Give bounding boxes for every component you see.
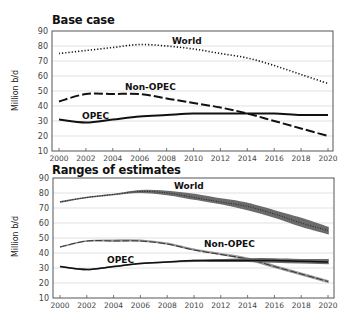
x-tick-label: 2002 (77, 301, 96, 310)
x-tick-label: 2012 (211, 301, 230, 310)
y-tick-label: 40 (39, 249, 49, 258)
series-label-nonopec: Non-OPEC (204, 239, 255, 249)
y-tick-label: 30 (39, 264, 49, 273)
x-tick-label: 2008 (158, 301, 177, 310)
x-tick-label: 2010 (184, 301, 203, 310)
series-label-opec: OPEC (107, 255, 134, 265)
y-tick-label: 80 (39, 189, 49, 198)
x-tick-label: 2020 (318, 301, 337, 310)
series-line (60, 191, 328, 230)
ranges-plot: 1020304050607080902000200220042006200820… (0, 0, 354, 325)
x-tick-label: 2006 (131, 301, 150, 310)
x-tick-label: 2004 (104, 301, 123, 310)
x-tick-label: 2018 (292, 301, 311, 310)
y-tick-label: 20 (39, 279, 49, 288)
x-tick-label: 2000 (50, 301, 69, 310)
x-tick-label: 2014 (238, 301, 257, 310)
y-tick-label: 90 (39, 174, 49, 183)
y-tick-label: 60 (39, 219, 49, 228)
x-tick-label: 2016 (265, 301, 284, 310)
y-tick-label: 50 (39, 234, 49, 243)
series-label-world: World (174, 181, 204, 191)
y-tick-label: 70 (39, 204, 49, 213)
y-tick-label: 10 (39, 294, 49, 303)
ranges-panel: Ranges of estimates Million b/d 10203040… (0, 0, 354, 325)
